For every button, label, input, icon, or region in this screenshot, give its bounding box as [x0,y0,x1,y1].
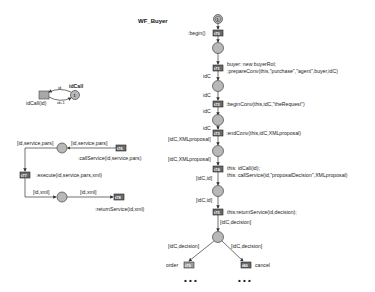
arc-label-a5: [idC,XMLproposal] [168,156,211,162]
diagram-title: WF_Buyer [138,18,168,24]
arc-label-a10: [idC,decision] [231,243,263,249]
arc-label-a6: [idC,id] [196,175,213,181]
t79-action: order [166,262,178,268]
t73-label: t73 [214,131,221,136]
t72-label: t72 [214,102,221,107]
t77-action: :execute(id,service,pars,xml) [36,172,102,178]
t77-label: t77 [21,173,28,178]
t80-action: cancel [255,262,270,268]
idcall-arc-bottom-label: id+1 [57,100,65,105]
t74-label: t74 [214,167,221,172]
idcall-place-label: idCall [69,83,84,89]
arc-service-place-t77 [25,148,57,171]
t75-action: this:returnService(id,decision); [227,209,297,215]
t70-label: t70 [214,31,221,36]
place-p5[interactable] [213,186,224,197]
t72-action: :beginConv(this,idC,"theRequest") [226,101,305,107]
t74-action-line2: this: callService(id,"proposalDecision",… [227,172,348,178]
idcall-transition-label: idCall(id) [26,100,47,106]
place-p3[interactable] [213,115,224,126]
service-arc-out-right: [id,xml] [80,189,97,195]
service-arc-out-left: [id,xml] [33,189,50,195]
t73-action: :endConv(this,idC,XMLproposal) [226,130,301,136]
continuation-left: • • • [184,276,197,285]
service-arc-in-left: [id,service,pars] [17,140,54,146]
arc-label-a3: idC [203,108,211,114]
arc-label-a8: [idC,decision] [220,219,252,225]
arc-label-a7: [idC,id] [196,197,213,203]
continuation-right: • • • [238,276,251,285]
t70-action: :begin() [188,30,206,36]
petri-net-diagram: WF_Buyer 1 t70 :begin() t71 buyer: new b… [0,0,375,292]
place-p2[interactable] [213,81,224,92]
arc-label-a1: idC [203,73,211,79]
t71-action-line1: buyer: new buyerRol; [227,61,276,67]
t79-label: t79 [185,263,192,268]
t80-label: t80 [242,263,249,268]
transition-idcall[interactable] [39,91,49,99]
t78-label: t78 [115,195,122,200]
place-service-return[interactable] [57,192,67,202]
place-p1[interactable] [213,43,224,54]
place-service-call[interactable] [57,143,67,153]
arc-label-a2: idC [203,92,211,98]
t71-action-line2: :prepareConv(this,"purchase","agent",buy… [227,68,338,74]
t76-action: :callService(id,service,pars) [78,155,142,161]
service-arc-in-right: [id,service,pars] [71,140,108,146]
t71-label: t71 [214,66,221,71]
place-p4[interactable] [213,146,224,157]
arc-label-a4: [idC,XMLproposal] [168,136,211,142]
idcall-arc-top-label: id [58,85,61,90]
t76-label: t76 [117,146,124,151]
arc-label-a9: [idC,decision] [168,243,200,249]
place-decision[interactable] [213,232,224,243]
t78-action: :returnService(id,xml) [95,206,145,212]
arc-label-a4-idC: idC [203,125,211,131]
t75-label: t75 [214,210,221,215]
t74-action-line1: this: idCall(id); [227,165,260,171]
